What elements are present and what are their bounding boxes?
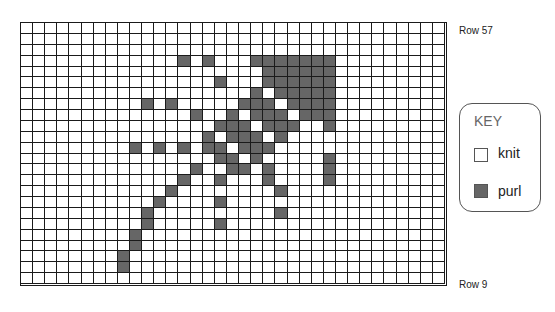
knit-stitch-cell	[69, 164, 81, 175]
knit-stitch-cell	[118, 45, 130, 56]
knit-stitch-cell	[372, 88, 384, 99]
knit-stitch-cell	[372, 197, 384, 208]
knit-stitch-cell	[142, 230, 154, 241]
knit-stitch-cell	[288, 45, 300, 56]
purl-stitch-cell	[324, 110, 336, 121]
knit-stitch-cell	[166, 143, 178, 154]
knit-stitch-cell	[106, 175, 118, 186]
knit-stitch-cell	[360, 110, 372, 121]
knit-stitch-cell	[384, 110, 396, 121]
knit-stitch-cell	[57, 34, 69, 45]
knit-stitch-cell	[421, 230, 433, 241]
knit-stitch-cell	[69, 241, 81, 252]
knit-stitch-cell	[348, 230, 360, 241]
purl-stitch-cell	[324, 88, 336, 99]
knit-stitch-cell	[421, 154, 433, 165]
knit-stitch-cell	[348, 121, 360, 132]
purl-stitch-cell	[263, 175, 275, 186]
knit-stitch-cell	[288, 154, 300, 165]
knit-stitch-cell	[324, 208, 336, 219]
knit-stitch-cell	[166, 56, 178, 67]
knit-stitch-cell	[130, 99, 142, 110]
knit-stitch-cell	[69, 186, 81, 197]
knit-stitch-cell	[203, 251, 215, 262]
knit-stitch-cell	[82, 251, 94, 262]
knit-stitch-cell	[45, 67, 57, 78]
knit-stitch-cell	[142, 132, 154, 143]
knit-stitch-cell	[433, 23, 445, 34]
knit-stitch-cell	[288, 110, 300, 121]
knit-stitch-cell	[106, 143, 118, 154]
knit-stitch-cell	[312, 45, 324, 56]
knit-stitch-cell	[336, 262, 348, 273]
purl-stitch-cell	[312, 110, 324, 121]
knit-stitch-cell	[409, 175, 421, 186]
knit-stitch-cell	[203, 45, 215, 56]
knit-stitch-cell	[251, 175, 263, 186]
knit-stitch-cell	[118, 132, 130, 143]
knit-stitch-cell	[130, 56, 142, 67]
knit-stitch-cell	[239, 219, 251, 230]
purl-stitch-cell	[275, 132, 287, 143]
knit-stitch-cell	[154, 251, 166, 262]
purl-stitch-cell	[215, 121, 227, 132]
knit-stitch-cell	[142, 88, 154, 99]
knit-stitch-cell	[45, 164, 57, 175]
knit-stitch-cell	[372, 45, 384, 56]
knit-stitch-cell	[397, 273, 409, 284]
knit-stitch-cell	[130, 262, 142, 273]
knit-stitch-cell	[69, 110, 81, 121]
knit-stitch-cell	[21, 154, 33, 165]
knit-stitch-cell	[215, 262, 227, 273]
knit-stitch-cell	[33, 241, 45, 252]
knit-stitch-cell	[263, 219, 275, 230]
purl-stitch-cell	[288, 99, 300, 110]
knit-stitch-cell	[57, 208, 69, 219]
knit-stitch-cell	[433, 175, 445, 186]
knit-stitch-cell	[409, 262, 421, 273]
knit-stitch-cell	[166, 77, 178, 88]
knit-stitch-cell	[384, 219, 396, 230]
knit-stitch-cell	[324, 219, 336, 230]
knit-stitch-cell	[251, 208, 263, 219]
knit-stitch-cell	[45, 34, 57, 45]
knit-stitch-cell	[312, 197, 324, 208]
knit-stitch-cell	[154, 88, 166, 99]
knit-stitch-cell	[397, 132, 409, 143]
knit-stitch-cell	[409, 251, 421, 262]
knit-stitch-cell	[251, 251, 263, 262]
knit-stitch-cell	[348, 23, 360, 34]
knit-stitch-cell	[130, 132, 142, 143]
knit-stitch-cell	[384, 154, 396, 165]
knit-stitch-cell	[45, 241, 57, 252]
knit-stitch-cell	[154, 262, 166, 273]
knit-stitch-cell	[57, 77, 69, 88]
knit-stitch-cell	[82, 241, 94, 252]
knit-stitch-cell	[409, 67, 421, 78]
knit-stitch-cell	[421, 251, 433, 262]
knit-stitch-cell	[203, 67, 215, 78]
knit-stitch-cell	[45, 121, 57, 132]
purl-stitch-cell	[203, 143, 215, 154]
knit-stitch-cell	[82, 273, 94, 284]
knit-stitch-cell	[21, 77, 33, 88]
knit-stitch-cell	[433, 251, 445, 262]
knit-stitch-cell	[142, 251, 154, 262]
knit-stitch-cell	[166, 262, 178, 273]
purl-stitch-cell	[203, 56, 215, 67]
knit-stitch-cell	[142, 56, 154, 67]
knit-stitch-cell	[94, 197, 106, 208]
knit-stitch-cell	[312, 230, 324, 241]
knit-stitch-cell	[154, 34, 166, 45]
knit-stitch-cell	[106, 77, 118, 88]
knit-stitch-cell	[239, 88, 251, 99]
knit-stitch-cell	[106, 262, 118, 273]
purl-stitch-cell	[324, 56, 336, 67]
knit-stitch-cell	[348, 219, 360, 230]
knit-stitch-cell	[82, 121, 94, 132]
knit-stitch-cell	[21, 175, 33, 186]
purl-stitch-cell	[288, 67, 300, 78]
knit-stitch-cell	[384, 186, 396, 197]
knit-stitch-cell	[227, 34, 239, 45]
knit-stitch-cell	[203, 230, 215, 241]
